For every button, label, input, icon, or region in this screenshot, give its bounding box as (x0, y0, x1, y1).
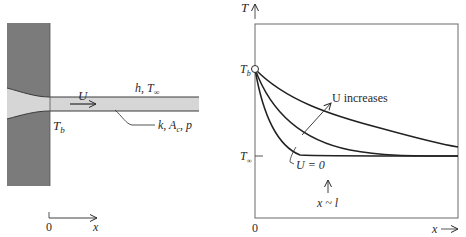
base-temp-label: Tb (53, 118, 65, 135)
tb-label: Tb (240, 62, 251, 78)
axis-origin-label: 0 (46, 220, 52, 234)
velocity-label: U (78, 88, 89, 103)
property-label: k, Ac, p (158, 118, 192, 134)
fin-schematic: U h, T∞ k, Ac, p Tb 0 x (7, 23, 199, 234)
ambient-label: h, T∞ (135, 81, 160, 97)
x-l-label: x ~ l (316, 196, 339, 210)
temperature-plot: T T∞ Tb U increases U = 0 x ~ l 0 x (240, 0, 458, 236)
y-axis-label: T (241, 0, 249, 15)
axis-x-label: x (92, 220, 99, 234)
u-zero-label: U = 0 (296, 158, 325, 172)
x-axis-label: x (431, 222, 438, 236)
curve-u-zero (255, 69, 458, 156)
property-leader-line (115, 110, 155, 125)
tb-point (252, 66, 259, 73)
u-increases-label: U increases (332, 91, 388, 105)
curve-u-mid (255, 69, 458, 156)
tinf-label: T∞ (240, 149, 252, 165)
x-origin-label: 0 (252, 221, 258, 235)
diagram-canvas: U h, T∞ k, Ac, p Tb 0 x T T∞ Tb U increa (0, 0, 466, 237)
curve-u-high (255, 69, 458, 147)
